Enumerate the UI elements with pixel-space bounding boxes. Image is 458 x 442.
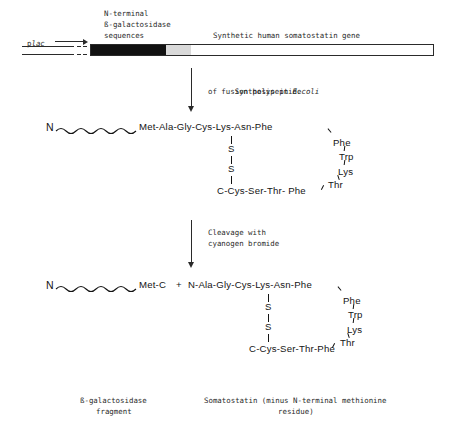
peptide1-loop-residue-2: Lys [338, 166, 353, 177]
step2-group: Cleavage with cyanogen bromide [0, 214, 458, 272]
peptide2-loop-tick-0 [338, 286, 342, 291]
captions-group: ß-galactosidase fragment Somatostatin (m… [0, 396, 458, 436]
step2-text-line1: Cleavage with [208, 228, 266, 239]
peptide1-loop-tick-4 [321, 185, 324, 190]
peptide1-bottom-chain: C-Cys-Ser-Thr- Phe [217, 185, 306, 196]
peptide2-bridge-s-top: S [265, 301, 271, 312]
step1-arrow-shaft [191, 68, 192, 108]
peptide1-wavy-chain [56, 125, 140, 135]
caption-left-line2: fragment [96, 407, 132, 418]
step2-arrow-shaft [191, 220, 192, 264]
plac-promoter-label: plac [27, 31, 45, 50]
promoter-line-upper [22, 46, 74, 47]
peptide1-loop-residue-0: Phe [333, 137, 351, 148]
peptide2-loop-residue-0: Phe [343, 295, 361, 306]
peptide1-n-terminus: N [46, 121, 54, 133]
peptide1-main-chain: Met-Ala-Gly-Cys-Lys-Asn-Phe [139, 121, 273, 132]
peptide2-bridge-tick-3 [268, 334, 269, 342]
peptide1-loop-residue-3: Thr [328, 179, 343, 190]
somatostatin-gene-label: Synthetic human somatostatin gene [213, 31, 360, 42]
promoter-dash-upper-2 [83, 46, 87, 47]
peptide2-fragment-tail: Met-C [139, 279, 166, 290]
peptide2-loop-residue-3: Thr [340, 337, 355, 348]
caption-left-line1: ß-galactosidase [80, 396, 147, 407]
nterminal-label-line3: sequences [104, 31, 144, 42]
gene-bar-betagal-segment [91, 45, 166, 55]
peptide1-loop-residue-1: Trp [339, 151, 354, 162]
peptide1-bridge-tick-3 [231, 176, 232, 184]
peptide2-plus-sign: + [176, 279, 182, 290]
figure-canvas: N-terminal ß-galactosidase sequences Syn… [0, 0, 458, 442]
plac-arrow-shaft [55, 41, 84, 42]
peptide2-group: N Met-C + N -Ala-Gly-Cys-Lys-Asn-Phe S S… [0, 272, 458, 367]
peptide2-bridge-s-bottom: S [265, 321, 271, 332]
peptide2-loop-residue-2: Lys [347, 324, 362, 335]
gene-bar-somatostatin-segment [166, 45, 191, 55]
peptide1-group: N Met-Ala-Gly-Cys-Lys-Asn-Phe S S C-Cys-… [0, 114, 458, 206]
caption-right-line1: Somatostatin (minus N-terminal methionin… [204, 396, 386, 407]
promoter-dash-lower-1 [77, 54, 81, 55]
step1-arrow-head [188, 106, 194, 112]
peptide2-n-terminus: N [46, 279, 54, 291]
peptide2-loop-tick-2 [353, 318, 355, 323]
promoter-dash-upper-1 [77, 46, 81, 47]
peptide2-bottom-chain: C-Cys-Ser-Thr-Phe [249, 343, 335, 354]
gene-construct-group: N-terminal ß-galactosidase sequences Syn… [0, 0, 458, 62]
peptide2-main-chain: -Ala-Gly-Cys-Lys-Asn-Phe [195, 279, 312, 290]
step1-text-line2: of fusion polypeptide [208, 87, 301, 98]
peptide1-loop-tick-0 [328, 128, 332, 133]
promoter-dash-lower-2 [83, 54, 87, 55]
step2-text-line2: cyanogen bromide [208, 239, 279, 250]
nterminal-label-line1: N-terminal [104, 9, 149, 20]
promoter-line-lower [22, 54, 74, 55]
nterminal-label-line2: ß-galactosidase [104, 20, 171, 31]
peptide2-wavy-chain [56, 283, 140, 293]
plac-arrow-head [83, 39, 88, 45]
caption-right-line2: residue) [278, 407, 314, 418]
peptide1-bridge-s-top: S [228, 143, 234, 154]
step1-group: Synthesis in E.coli of fusion polypeptid… [0, 62, 458, 114]
peptide1-loop-tick-2 [344, 160, 346, 165]
peptide2-loop-residue-1: Trp [348, 309, 363, 320]
step2-arrow-head [188, 262, 194, 268]
peptide1-bridge-s-bottom: S [228, 163, 234, 174]
